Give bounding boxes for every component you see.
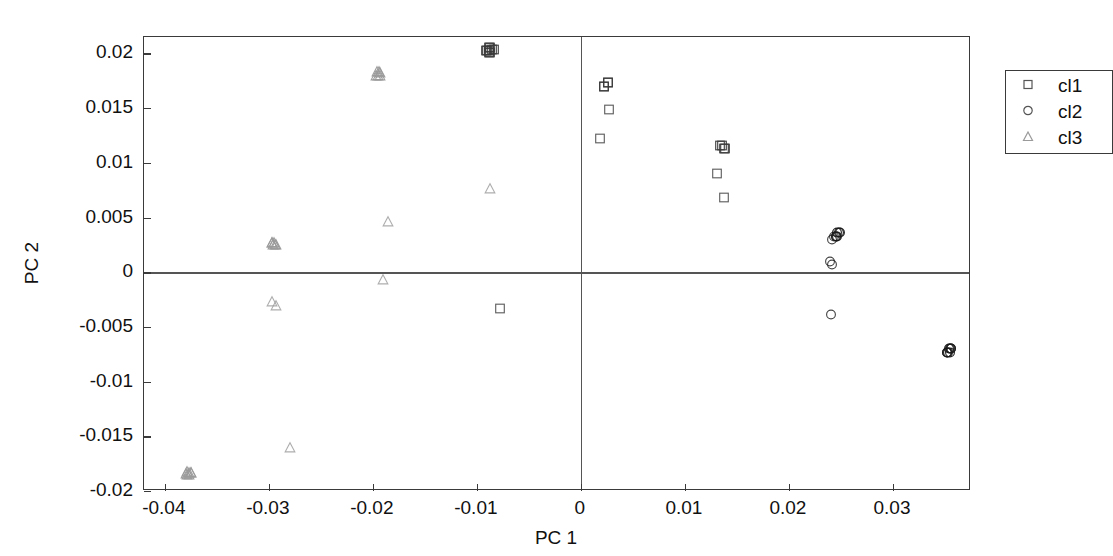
plot-area: cl1 cl2 cl3 — [143, 36, 970, 490]
data-point-cl3 — [265, 235, 278, 253]
data-point-cl2 — [944, 341, 957, 359]
square-marker-icon — [1022, 77, 1035, 95]
x-tick-label: 0.03 — [873, 497, 910, 519]
data-point-cl3 — [183, 465, 196, 483]
x-tick — [789, 484, 790, 491]
data-point-cl1 — [601, 75, 614, 93]
data-point-cl2 — [831, 225, 844, 243]
zero-line-horizontal — [144, 272, 969, 273]
data-point-cl1 — [486, 42, 499, 60]
y-tick — [144, 327, 151, 328]
x-tick-label: -0.03 — [246, 497, 289, 519]
y-tick-label: -0.01 — [90, 370, 133, 392]
legend: cl1 cl2 cl3 — [1005, 70, 1113, 154]
triangle-marker-icon — [1022, 129, 1035, 147]
data-point-cl3 — [371, 64, 384, 82]
x-tick — [893, 484, 894, 491]
data-point-cl3 — [181, 464, 194, 482]
data-point-cl3 — [270, 298, 283, 316]
data-point-cl1 — [483, 43, 496, 61]
data-point-cl1 — [602, 75, 615, 93]
x-tick-label: 0 — [575, 497, 586, 519]
data-point-cl2 — [945, 341, 958, 359]
data-point-cl1 — [487, 42, 500, 60]
data-point-cl3 — [268, 237, 281, 255]
data-point-cl2 — [829, 229, 842, 247]
legend-label-cl2: cl2 — [1058, 101, 1082, 123]
x-tick — [581, 484, 582, 491]
y-tick-label: 0.005 — [85, 206, 133, 228]
data-point-cl3 — [180, 466, 193, 484]
data-point-cl2 — [831, 229, 844, 247]
circle-marker-icon — [1022, 103, 1035, 121]
data-point-cl1 — [715, 138, 728, 156]
data-point-cl1 — [602, 102, 615, 120]
data-point-cl2 — [944, 341, 957, 359]
legend-label-cl3: cl3 — [1058, 127, 1082, 149]
data-point-cl3 — [373, 68, 386, 86]
y-tick-label: 0.015 — [85, 96, 133, 118]
data-point-cl2 — [834, 225, 847, 243]
data-point-cl3 — [265, 294, 278, 312]
data-point-cl3 — [183, 467, 196, 485]
legend-item-cl2: cl2 — [1006, 99, 1112, 125]
y-tick-label: 0 — [122, 260, 133, 282]
x-tick — [269, 484, 270, 491]
legend-item-cl3: cl3 — [1006, 125, 1112, 151]
y-tick-label: -0.015 — [79, 424, 133, 446]
data-point-cl2 — [942, 345, 955, 363]
data-point-cl2 — [833, 225, 846, 243]
x-tick-label: -0.01 — [454, 497, 497, 519]
x-tick — [477, 484, 478, 491]
y-tick — [144, 382, 151, 383]
data-point-cl1 — [598, 79, 611, 97]
data-point-cl1 — [493, 301, 506, 319]
y-tick-label: 0.01 — [96, 151, 133, 173]
data-point-cl1 — [482, 40, 495, 58]
data-point-cl3 — [184, 465, 197, 483]
zero-line-vertical — [581, 37, 582, 489]
data-point-cl3 — [268, 235, 281, 253]
x-tick — [373, 484, 374, 491]
y-tick — [144, 218, 151, 219]
data-point-cl2 — [940, 345, 953, 363]
y-tick-label: -0.02 — [90, 479, 133, 501]
data-point-cl3 — [266, 237, 279, 255]
data-point-cl2 — [826, 232, 839, 250]
data-point-cl2 — [944, 345, 957, 363]
data-point-cl1 — [481, 43, 494, 61]
data-point-cl2 — [827, 229, 840, 247]
data-point-cl1 — [483, 45, 496, 63]
data-point-cl1 — [711, 166, 724, 184]
data-point-cl3 — [184, 465, 197, 483]
x-axis-title: PC 1 — [535, 527, 577, 549]
data-point-cl2 — [941, 345, 954, 363]
data-point-cl3 — [370, 68, 383, 86]
data-point-cl3 — [181, 467, 194, 485]
data-point-cl1 — [593, 131, 606, 149]
x-tick-label: 0.02 — [769, 497, 806, 519]
x-tick — [685, 484, 686, 491]
data-point-cl1 — [484, 40, 497, 58]
y-tick — [144, 272, 151, 273]
data-point-cl1 — [717, 141, 730, 159]
y-tick-label: 0.02 — [96, 41, 133, 63]
y-axis-title: PC 2 — [21, 242, 43, 284]
data-point-cl2 — [824, 254, 837, 272]
legend-label-cl1: cl1 — [1058, 75, 1082, 97]
x-tick-label: 0.01 — [665, 497, 702, 519]
data-point-cl1 — [483, 45, 496, 63]
y-tick — [144, 53, 151, 54]
data-point-cl3 — [266, 235, 279, 253]
data-point-cl1 — [714, 138, 727, 156]
y-tick-label: -0.005 — [79, 315, 133, 337]
data-point-cl1 — [480, 43, 493, 61]
x-tick — [165, 484, 166, 491]
legend-item-cl1: cl1 — [1006, 73, 1112, 99]
data-point-cl2 — [824, 307, 837, 325]
y-tick — [144, 491, 151, 492]
data-point-cl2 — [943, 341, 956, 359]
data-point-cl3 — [382, 214, 395, 232]
data-point-cl3 — [484, 181, 497, 199]
